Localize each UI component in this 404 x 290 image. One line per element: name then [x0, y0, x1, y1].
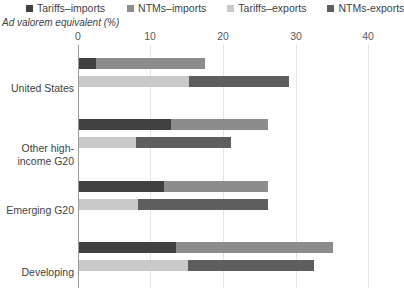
bar-segment-ntms-exports [138, 199, 268, 210]
bar-imports-emerging-g20[interactable] [79, 181, 268, 192]
chart-legend: Tariffs–imports NTMs–imports Tariffs–exp… [0, 0, 389, 16]
bar-segment-tariffs-exports [79, 76, 189, 87]
x-tick-40: 40 [362, 30, 374, 42]
gridline-40 [368, 45, 369, 288]
legend-item-tariffs-imports[interactable]: Tariffs–imports [26, 2, 105, 14]
x-axis-tick-labels: 0 10 20 30 40 [0, 30, 389, 44]
bar-exports-emerging-g20[interactable] [79, 199, 268, 210]
category-label-line1: Other high- [0, 142, 74, 155]
bar-exports-united-states[interactable] [79, 76, 289, 87]
category-label-line1: Developing [0, 266, 74, 279]
bar-segment-ntms-exports [188, 260, 314, 271]
x-tick-0: 0 [75, 30, 81, 42]
bar-imports-united-states[interactable] [79, 58, 205, 69]
legend-swatch-icon-ntms-imports [127, 5, 134, 12]
legend-label-ntms-imports: NTMs–imports [138, 2, 206, 14]
legend-label-tariffs-imports: Tariffs–imports [37, 2, 105, 14]
x-tick-30: 30 [290, 30, 302, 42]
bar-exports-developing[interactable] [79, 260, 314, 271]
legend-swatch-icon-ntms-exports [327, 5, 334, 12]
x-tick-10: 10 [144, 30, 156, 42]
bar-segment-tariffs-exports [79, 260, 188, 271]
bar-segment-tariffs-exports [79, 137, 136, 148]
bar-segment-tariffs-imports [79, 58, 96, 69]
legend-item-ntms-exports[interactable]: NTMs-exports [327, 2, 404, 14]
legend-item-ntms-imports[interactable]: NTMs–imports [127, 2, 206, 14]
bar-exports-other-high-income-g20[interactable] [79, 137, 231, 148]
bar-segment-ntms-exports [136, 137, 231, 148]
bar-segment-ntms-imports [96, 58, 205, 69]
bar-segment-ntms-imports [176, 242, 333, 253]
bar-segment-tariffs-exports [79, 199, 138, 210]
category-label-other-high-income-g20: Other high- income G20 [0, 142, 74, 168]
category-label-line1: Emerging G20 [0, 204, 74, 217]
bar-imports-developing[interactable] [79, 242, 333, 253]
legend-item-tariffs-exports[interactable]: Tariffs–exports [227, 2, 306, 14]
bar-segment-ntms-imports [171, 119, 268, 130]
legend-swatch-icon-tariffs-imports [26, 5, 33, 12]
category-label-line2: income G20 [0, 155, 74, 168]
legend-swatch-icon-tariffs-exports [227, 5, 234, 12]
bar-segment-ntms-imports [164, 181, 268, 192]
category-label-emerging-g20: Emerging G20 [0, 204, 74, 217]
bar-segment-ntms-exports [189, 76, 289, 87]
bar-segment-tariffs-imports [79, 181, 164, 192]
legend-label-tariffs-exports: Tariffs–exports [238, 2, 306, 14]
legend-label-ntms-exports: NTMs-exports [338, 2, 404, 14]
bar-segment-tariffs-imports [79, 242, 176, 253]
bar-segment-tariffs-imports [79, 119, 171, 130]
x-axis-title: Ad valorem equivalent (%) [2, 17, 119, 28]
category-label-developing: Developing [0, 266, 74, 279]
category-label-line1: United States [0, 82, 74, 95]
category-label-united-states: United States [0, 82, 74, 95]
bar-imports-other-high-income-g20[interactable] [79, 119, 268, 130]
plot-area [78, 45, 369, 288]
x-tick-20: 20 [217, 30, 229, 42]
